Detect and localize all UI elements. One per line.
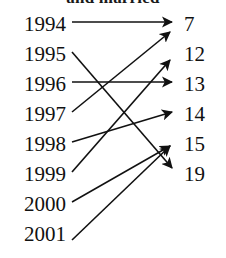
left-node-1999: 1999 bbox=[24, 164, 66, 185]
left-node-1996: 1996 bbox=[24, 74, 66, 95]
edge-1997-to-7 bbox=[72, 32, 170, 112]
edge-group bbox=[72, 22, 172, 240]
left-node-1995: 1995 bbox=[24, 44, 66, 65]
left-node-2000: 2000 bbox=[24, 194, 66, 215]
right-node-12: 12 bbox=[184, 44, 205, 65]
right-node-15: 15 bbox=[184, 134, 205, 155]
arrow-layer bbox=[0, 0, 226, 258]
right-node-19: 19 bbox=[184, 164, 205, 185]
left-node-1997: 1997 bbox=[24, 104, 66, 125]
left-node-1998: 1998 bbox=[24, 134, 66, 155]
left-node-1994: 1994 bbox=[24, 14, 66, 35]
edge-1995-to-19 bbox=[72, 52, 172, 168]
mapping-diagram-figure: and married 1994199519961997199819992000… bbox=[0, 0, 226, 258]
edge-1998-to-14 bbox=[72, 112, 172, 142]
right-node-13: 13 bbox=[184, 74, 205, 95]
left-node-2001: 2001 bbox=[24, 224, 66, 245]
right-node-14: 14 bbox=[184, 104, 205, 125]
right-node-7: 7 bbox=[184, 14, 195, 35]
